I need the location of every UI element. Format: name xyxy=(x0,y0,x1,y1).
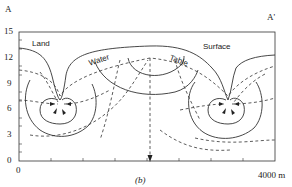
flow-line-left-2 xyxy=(30,60,148,136)
arrow-icon xyxy=(53,108,57,114)
arrow-icon xyxy=(62,109,66,115)
flow-line-right-2 xyxy=(195,138,275,142)
y-axis-ticks xyxy=(19,40,22,152)
arrow-icon xyxy=(231,109,235,115)
arrow-icon xyxy=(50,102,55,106)
land-surface-line xyxy=(19,46,275,100)
flow-line-right-5 xyxy=(160,130,230,150)
water-table-line xyxy=(19,58,275,96)
flow-line-left-3 xyxy=(64,90,110,104)
equipotential-left-outer xyxy=(25,80,96,136)
plot-frame xyxy=(19,32,275,161)
arrow-icon xyxy=(222,108,226,114)
flow-net-diagram xyxy=(0,0,292,187)
x-axis-ticks xyxy=(51,158,243,161)
arrow-icon xyxy=(234,102,239,106)
flow-line-center-left xyxy=(100,60,120,140)
arrow-icon xyxy=(66,102,71,106)
flow-line-right-3 xyxy=(180,104,224,110)
arrow-icon xyxy=(219,102,224,106)
flow-line-center-right xyxy=(175,60,200,120)
surface-label: Surface xyxy=(203,43,231,51)
flow-arrows xyxy=(50,102,239,162)
land-label: Land xyxy=(32,40,50,48)
flow-line-right-4 xyxy=(234,74,265,102)
